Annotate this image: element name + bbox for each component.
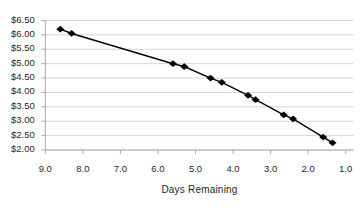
diamond-marker [169, 60, 177, 67]
tick-marks-group [41, 21, 345, 155]
y-tick-label: $5.00 [11, 57, 35, 68]
chart-container: $6.50$6.00$5.50$5.00$4.50$4.00$3.50$3.00… [0, 0, 362, 208]
chart-canvas: $6.50$6.00$5.50$5.00$4.50$4.00$3.50$3.00… [0, 0, 362, 208]
diamond-marker [68, 30, 76, 37]
series-line-group [60, 29, 332, 143]
y-tick-label: $2.50 [11, 129, 35, 140]
x-tick-label: 5.0 [189, 163, 202, 174]
diamond-marker [218, 79, 226, 86]
diamond-marker [280, 111, 288, 118]
y-axis-labels-group: $6.50$6.00$5.50$5.00$4.50$4.00$3.50$3.00… [11, 14, 35, 155]
x-tick-label: 8.0 [76, 163, 89, 174]
x-tick-label: 9.0 [39, 163, 52, 174]
x-tick-label: 3.0 [264, 163, 277, 174]
x-axis-labels-group: 9.08.07.06.05.04.03.02.01.0 [39, 163, 353, 174]
x-axis-title: Days Remaining [45, 184, 354, 195]
series-line [60, 29, 332, 143]
diamond-marker [56, 26, 64, 33]
x-tick-label: 2.0 [302, 163, 315, 174]
x-tick-label: 7.0 [114, 163, 127, 174]
y-tick-label: $4.50 [11, 71, 35, 82]
y-tick-label: $6.50 [11, 14, 35, 25]
diamond-marker [207, 75, 215, 82]
y-tick-label: $6.00 [11, 28, 35, 39]
y-tick-label: $5.50 [11, 42, 35, 53]
y-tick-label: $3.50 [11, 100, 35, 111]
x-tick-label: 1.0 [339, 163, 352, 174]
y-tick-label: $3.00 [11, 114, 35, 125]
y-tick-label: $2.00 [11, 143, 35, 154]
x-tick-label: 6.0 [151, 163, 164, 174]
y-tick-label: $4.00 [11, 85, 35, 96]
x-tick-label: 4.0 [226, 163, 239, 174]
series-markers-group [56, 26, 336, 146]
